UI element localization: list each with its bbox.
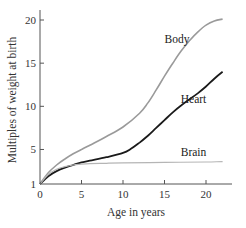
y-tick-label: 20	[25, 14, 37, 26]
series-line-heart	[40, 72, 223, 184]
series-label-body: Body	[164, 33, 189, 46]
x-tick-label: 10	[118, 188, 130, 200]
y-tick-label: 15	[25, 57, 37, 69]
y-tick-label: 10	[25, 100, 37, 112]
x-tick-label: 15	[159, 188, 171, 200]
y-axis-title: Multiples of weight at birth	[6, 37, 19, 164]
y-axis-ticks: 15101520	[25, 14, 44, 190]
x-axis-title: Age in years	[107, 206, 166, 219]
x-tick-label: 5	[79, 188, 85, 200]
y-tick-label: 1	[31, 178, 37, 190]
y-tick-label: 5	[31, 143, 37, 155]
series-label-heart: Heart	[181, 93, 207, 105]
series-label-brain: Brain	[181, 146, 207, 158]
series-line-brain	[40, 162, 223, 184]
x-tick-label: 0	[37, 188, 43, 200]
series-labels: BodyHeartBrain	[164, 33, 207, 157]
x-axis-ticks: 05101520	[37, 180, 212, 200]
x-tick-label: 20	[201, 188, 213, 200]
line-chart: 05101520 15101520 Age in years Multiples…	[0, 0, 246, 228]
